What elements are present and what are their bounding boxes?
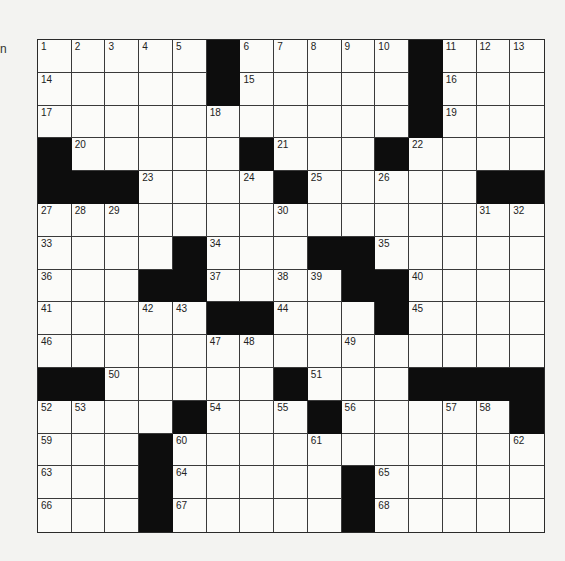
- grid-cell[interactable]: 60: [173, 434, 207, 467]
- grid-cell[interactable]: [72, 466, 106, 499]
- grid-cell[interactable]: [72, 237, 106, 270]
- grid-cell[interactable]: [409, 434, 443, 467]
- grid-cell[interactable]: [342, 368, 376, 401]
- grid-cell[interactable]: [375, 73, 409, 106]
- grid-cell[interactable]: [139, 335, 173, 368]
- grid-cell[interactable]: [72, 73, 106, 106]
- grid-cell[interactable]: [105, 335, 139, 368]
- grid-cell[interactable]: [409, 237, 443, 270]
- grid-cell[interactable]: [274, 466, 308, 499]
- grid-cell[interactable]: 31: [477, 204, 511, 237]
- grid-cell[interactable]: 39: [308, 270, 342, 303]
- grid-cell[interactable]: 41: [38, 302, 72, 335]
- grid-cell[interactable]: [105, 302, 139, 335]
- grid-cell[interactable]: [308, 138, 342, 171]
- grid-cell[interactable]: 64: [173, 466, 207, 499]
- grid-cell[interactable]: [342, 302, 376, 335]
- grid-cell[interactable]: 24: [240, 171, 274, 204]
- grid-cell[interactable]: 2: [72, 40, 106, 73]
- grid-cell[interactable]: [477, 270, 511, 303]
- grid-cell[interactable]: [105, 237, 139, 270]
- grid-cell[interactable]: 46: [38, 335, 72, 368]
- grid-cell[interactable]: [342, 434, 376, 467]
- grid-cell[interactable]: [342, 73, 376, 106]
- grid-cell[interactable]: 37: [207, 270, 241, 303]
- grid-cell[interactable]: 53: [72, 401, 106, 434]
- grid-cell[interactable]: [443, 204, 477, 237]
- grid-cell[interactable]: [173, 171, 207, 204]
- grid-cell[interactable]: 51: [308, 368, 342, 401]
- grid-cell[interactable]: 44: [274, 302, 308, 335]
- grid-cell[interactable]: 17: [38, 106, 72, 139]
- grid-cell[interactable]: [207, 499, 241, 532]
- grid-cell[interactable]: [72, 106, 106, 139]
- grid-cell[interactable]: 6: [240, 40, 274, 73]
- grid-cell[interactable]: [477, 106, 511, 139]
- grid-cell[interactable]: 61: [308, 434, 342, 467]
- grid-cell[interactable]: 67: [173, 499, 207, 532]
- grid-cell[interactable]: 42: [139, 302, 173, 335]
- grid-cell[interactable]: 23: [139, 171, 173, 204]
- grid-cell[interactable]: 62: [510, 434, 544, 467]
- grid-cell[interactable]: [477, 434, 511, 467]
- grid-cell[interactable]: [510, 466, 544, 499]
- grid-cell[interactable]: [375, 434, 409, 467]
- grid-cell[interactable]: [443, 171, 477, 204]
- grid-cell[interactable]: 20: [72, 138, 106, 171]
- grid-cell[interactable]: [105, 434, 139, 467]
- grid-cell[interactable]: 43: [173, 302, 207, 335]
- grid-cell[interactable]: 9: [342, 40, 376, 73]
- grid-cell[interactable]: [274, 73, 308, 106]
- grid-cell[interactable]: [510, 73, 544, 106]
- grid-cell[interactable]: [72, 434, 106, 467]
- grid-cell[interactable]: [105, 106, 139, 139]
- grid-cell[interactable]: 1: [38, 40, 72, 73]
- grid-cell[interactable]: 35: [375, 237, 409, 270]
- grid-cell[interactable]: 49: [342, 335, 376, 368]
- grid-cell[interactable]: [510, 302, 544, 335]
- grid-cell[interactable]: [510, 106, 544, 139]
- grid-cell[interactable]: 28: [72, 204, 106, 237]
- grid-cell[interactable]: 33: [38, 237, 72, 270]
- grid-cell[interactable]: [477, 335, 511, 368]
- grid-cell[interactable]: 3: [105, 40, 139, 73]
- grid-cell[interactable]: [477, 73, 511, 106]
- grid-cell[interactable]: 27: [38, 204, 72, 237]
- grid-cell[interactable]: 13: [510, 40, 544, 73]
- grid-cell[interactable]: 54: [207, 401, 241, 434]
- grid-cell[interactable]: [139, 204, 173, 237]
- grid-cell[interactable]: [409, 204, 443, 237]
- grid-cell[interactable]: [105, 401, 139, 434]
- grid-cell[interactable]: 55: [274, 401, 308, 434]
- grid-cell[interactable]: 40: [409, 270, 443, 303]
- grid-cell[interactable]: [342, 138, 376, 171]
- grid-cell[interactable]: 26: [375, 171, 409, 204]
- grid-cell[interactable]: [139, 368, 173, 401]
- grid-cell[interactable]: [240, 401, 274, 434]
- grid-cell[interactable]: [139, 73, 173, 106]
- grid-cell[interactable]: [274, 237, 308, 270]
- grid-cell[interactable]: [139, 138, 173, 171]
- grid-cell[interactable]: [443, 138, 477, 171]
- grid-cell[interactable]: [477, 138, 511, 171]
- grid-cell[interactable]: [443, 270, 477, 303]
- grid-cell[interactable]: [375, 204, 409, 237]
- grid-cell[interactable]: 11: [443, 40, 477, 73]
- grid-cell[interactable]: [173, 73, 207, 106]
- grid-cell[interactable]: [139, 237, 173, 270]
- grid-cell[interactable]: [207, 466, 241, 499]
- grid-cell[interactable]: [342, 171, 376, 204]
- grid-cell[interactable]: [409, 499, 443, 532]
- grid-cell[interactable]: 4: [139, 40, 173, 73]
- grid-cell[interactable]: [207, 138, 241, 171]
- grid-cell[interactable]: [240, 270, 274, 303]
- grid-cell[interactable]: 22: [409, 138, 443, 171]
- grid-cell[interactable]: 21: [274, 138, 308, 171]
- grid-cell[interactable]: [173, 204, 207, 237]
- grid-cell[interactable]: 45: [409, 302, 443, 335]
- grid-cell[interactable]: [443, 466, 477, 499]
- grid-cell[interactable]: [510, 499, 544, 532]
- grid-cell[interactable]: [409, 335, 443, 368]
- grid-cell[interactable]: [139, 106, 173, 139]
- grid-cell[interactable]: 14: [38, 73, 72, 106]
